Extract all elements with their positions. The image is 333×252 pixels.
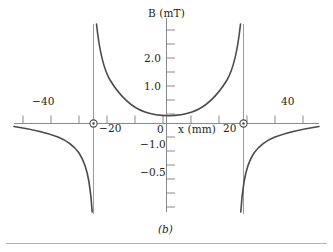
x-tick-label-40: 40 [281,96,295,107]
figure-caption: (b) [158,223,173,235]
x-axis-unit: (mm) [187,123,216,135]
wire-marker-left [90,120,97,127]
y-tick-label-2.0: 2.0 [144,53,161,64]
x-tick-label-neg-40: −40 [32,96,54,107]
y-tick-label-neg-0.5: −0.5 [140,167,166,178]
wire-marker-right [240,120,247,127]
curve-left-branch [14,127,92,213]
x-tick-label-20: 20 [223,123,237,134]
y-axis-variable: B [148,7,156,19]
figure-panel: B (mT) x (mm) 2.0 1.0 −1.0 −0.5 −40 −20 … [0,0,333,252]
curve-center-branch [97,24,241,116]
x-tick-label-0: 0 [157,124,164,135]
y-tick-label-1.0: 1.0 [144,81,161,92]
plot-area [0,0,333,252]
x-tick-label-neg-20: −20 [99,123,121,134]
curve-right-branch [241,127,319,213]
x-axis-title: x (mm) [178,124,216,135]
y-axis-unit: (mT) [159,7,185,19]
y-axis-title: B (mT) [148,8,185,19]
y-axis-ticks [167,30,176,207]
y-tick-label-neg-1.0: −1.0 [140,139,166,150]
